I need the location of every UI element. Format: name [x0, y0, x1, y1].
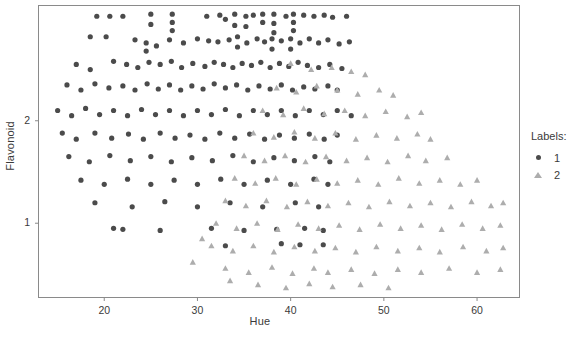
data-point-circle — [158, 130, 163, 135]
data-point-circle — [156, 86, 161, 91]
plot-frame-border — [39, 6, 520, 298]
data-point-circle — [296, 60, 301, 65]
data-point-circle — [244, 40, 249, 45]
data-point-circle — [64, 82, 69, 87]
data-point-circle — [335, 108, 340, 113]
data-point-circle — [209, 112, 214, 117]
data-point-circle — [302, 226, 307, 231]
data-point-circle — [106, 85, 111, 90]
triangle-marker-icon — [531, 172, 545, 178]
x-tick-label: 30 — [182, 304, 212, 316]
data-point-circle — [212, 60, 217, 65]
data-point-circle — [169, 59, 174, 64]
data-point-circle — [209, 226, 214, 231]
data-point-circle — [262, 39, 267, 44]
data-point-circle — [190, 61, 195, 66]
data-point-circle — [221, 62, 226, 67]
data-point-circle — [293, 113, 298, 118]
data-point-circle — [268, 86, 273, 91]
data-point-circle — [158, 62, 163, 67]
data-point-circle — [148, 12, 153, 17]
data-point-circle — [293, 200, 298, 205]
data-point-circle — [170, 28, 175, 33]
data-point-circle — [141, 137, 146, 142]
data-point-circle — [125, 177, 130, 182]
data-point-circle — [195, 204, 200, 209]
data-point-circle — [120, 14, 125, 19]
plot-canvas — [0, 0, 582, 339]
data-point-circle — [277, 133, 282, 138]
legend-marker-shape — [536, 155, 541, 160]
data-point-circle — [169, 159, 174, 164]
data-point-circle — [321, 228, 326, 233]
data-point-circle — [200, 86, 205, 91]
x-tick-label: 40 — [276, 304, 306, 316]
data-point-circle — [144, 48, 149, 53]
data-point-circle — [241, 182, 246, 187]
legend-entries: 12 — [531, 149, 581, 183]
data-point-circle — [102, 182, 107, 187]
data-point-circle — [251, 13, 256, 18]
data-point-circle — [251, 159, 256, 164]
data-point-circle — [330, 15, 335, 20]
data-point-circle — [232, 136, 237, 141]
data-point-circle — [227, 200, 232, 205]
data-point-circle — [271, 21, 276, 26]
data-point-circle — [240, 61, 245, 66]
data-point-circle — [269, 36, 274, 41]
data-point-circle — [292, 136, 297, 141]
data-point-circle — [148, 22, 153, 27]
legend-entry-2[interactable]: 2 — [531, 166, 581, 183]
data-point-circle — [92, 81, 97, 86]
data-point-circle — [148, 182, 153, 187]
data-point-circle — [279, 241, 284, 246]
data-point-circle — [111, 108, 116, 113]
data-point-circle — [167, 82, 172, 87]
legend-title: Labels: — [531, 130, 581, 142]
data-point-circle — [322, 13, 327, 18]
data-point-circle — [347, 39, 352, 44]
data-point-circle — [279, 38, 284, 43]
legend-label: 1 — [554, 152, 560, 164]
data-point-circle — [125, 113, 130, 118]
data-point-circle — [55, 108, 60, 113]
data-point-circle — [307, 108, 312, 113]
data-point-circle — [69, 113, 74, 118]
data-point-circle — [107, 14, 112, 19]
data-point-circle — [288, 36, 293, 41]
data-point-circle — [88, 67, 93, 72]
data-point-circle — [146, 60, 151, 65]
legend: Labels: 12 — [531, 130, 581, 183]
data-point-circle — [321, 242, 326, 247]
data-point-circle — [195, 182, 200, 187]
data-point-circle — [167, 37, 172, 42]
data-point-circle — [337, 41, 342, 46]
data-point-circle — [265, 178, 270, 183]
legend-entry-1[interactable]: 1 — [531, 149, 581, 166]
data-point-circle — [94, 14, 99, 19]
data-point-circle — [339, 66, 344, 71]
data-point-circle — [249, 63, 254, 68]
data-point-circle — [126, 131, 131, 136]
data-point-circle — [74, 62, 79, 67]
data-point-circle — [181, 113, 186, 118]
data-point-circle — [344, 14, 349, 19]
data-point-circle — [230, 153, 235, 158]
data-point-circle — [130, 204, 135, 209]
data-point-circle — [120, 83, 125, 88]
data-point-circle — [316, 204, 321, 209]
data-point-circle — [107, 153, 112, 158]
data-point-circle — [291, 12, 296, 17]
data-point-circle — [74, 137, 79, 142]
data-point-circle — [215, 39, 220, 44]
data-point-circle — [178, 87, 183, 92]
data-point-circle — [230, 65, 235, 70]
data-point-circle — [301, 84, 306, 89]
x-tick-label: 50 — [369, 304, 399, 316]
data-point-circle — [243, 14, 248, 19]
data-point-circle — [111, 59, 116, 64]
data-point-circle — [292, 158, 297, 163]
data-point-circle — [258, 60, 263, 65]
data-point-circle — [232, 12, 237, 17]
data-point-circle — [139, 107, 144, 112]
